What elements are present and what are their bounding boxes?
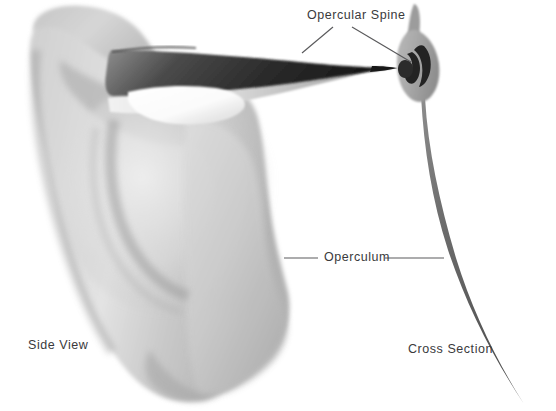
leader-spine-left: [302, 27, 333, 53]
label-side-view: Side View: [28, 338, 88, 352]
spine-tip: [370, 66, 398, 72]
label-cross-section: Cross Section: [408, 342, 493, 356]
figure-canvas: Opercular Spine Operculum Side View Cros…: [0, 0, 556, 411]
cross-section-spine-core: [398, 60, 413, 78]
label-operculum: Operculum: [324, 250, 390, 264]
label-opercular-spine: Opercular Spine: [307, 8, 406, 22]
cross-section-tail: [421, 96, 524, 404]
